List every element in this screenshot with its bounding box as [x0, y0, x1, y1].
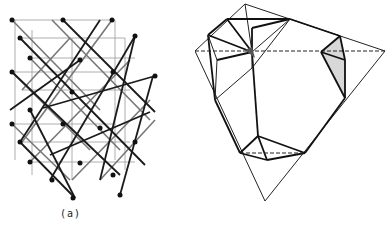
lattice-drawing [0, 0, 195, 231]
panel-a-lattice: (a) [0, 0, 195, 231]
tetrahedron-drawing [195, 0, 389, 231]
panel-b-tetrahedron: (b) [195, 0, 389, 231]
panel-a-caption: (a) [60, 208, 81, 219]
